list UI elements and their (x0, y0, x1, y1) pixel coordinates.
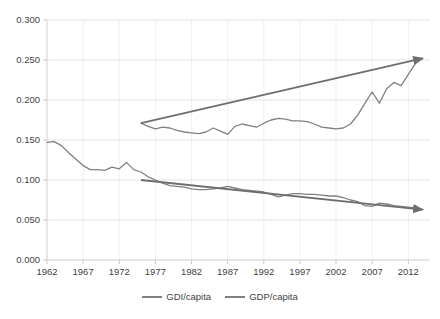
series-line-gdi-capita (141, 58, 423, 134)
x-tick-label: 1992 (244, 266, 284, 277)
legend-item-gdp-capita[interactable]: GDP/capita (225, 291, 298, 302)
chart-container: 0.0000.0500.1000.1500.2000.2500.300 1962… (0, 0, 440, 319)
y-tick-label: 0.300 (4, 14, 40, 25)
legend-line-swatch (142, 296, 162, 298)
legend-line-swatch (225, 296, 245, 298)
x-tick-label: 1962 (27, 266, 67, 277)
x-tick-label: 1977 (135, 266, 175, 277)
legend-label: GDP/capita (249, 291, 298, 302)
legend-label: GDI/capita (166, 291, 211, 302)
x-tick-label: 2012 (388, 266, 428, 277)
y-tick-label: 0.250 (4, 54, 40, 65)
gdi-trend-arrow (141, 58, 422, 123)
y-tick-label: 0.050 (4, 214, 40, 225)
x-tick-label: 2007 (352, 266, 392, 277)
x-tick-label: 1982 (172, 266, 212, 277)
legend-item-gdi-capita[interactable]: GDI/capita (142, 291, 211, 302)
x-tick-label: 1987 (208, 266, 248, 277)
x-tick-label: 2002 (316, 266, 356, 277)
x-tick-label: 1967 (63, 266, 103, 277)
gdp-trend-arrow (141, 180, 422, 210)
y-tick-label: 0.000 (4, 254, 40, 265)
y-tick-label: 0.100 (4, 174, 40, 185)
chart-legend: GDI/capitaGDP/capita (0, 291, 440, 302)
x-tick-label: 1972 (99, 266, 139, 277)
series-line-gdp-capita (47, 142, 423, 210)
y-tick-label: 0.200 (4, 94, 40, 105)
y-tick-label: 0.150 (4, 134, 40, 145)
x-tick-label: 1997 (280, 266, 320, 277)
